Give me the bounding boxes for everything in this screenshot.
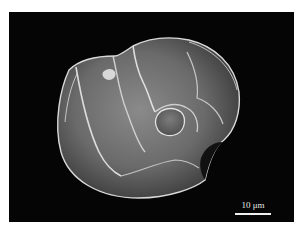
specimen-image <box>9 12 294 222</box>
central-chamber <box>156 109 185 136</box>
caption-partial <box>8 226 78 232</box>
specimen-body <box>58 38 240 198</box>
sem-micrograph-panel: 10 μm <box>9 12 294 222</box>
scale-bar-line <box>235 213 271 215</box>
scale-bar: 10 μm <box>235 200 271 215</box>
scale-bar-label: 10 μm <box>235 200 271 210</box>
